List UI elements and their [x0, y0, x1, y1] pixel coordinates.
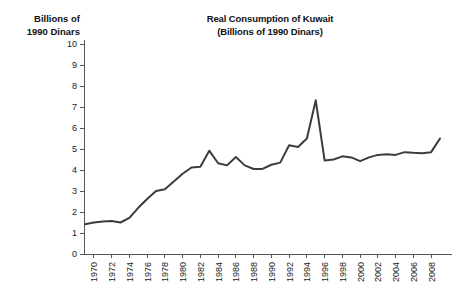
x-tick-label: 1988: [249, 262, 259, 282]
x-tick-label: 1998: [338, 262, 348, 282]
y-tick-label: 1: [72, 228, 77, 238]
y-tick-label: 9: [72, 60, 77, 70]
x-tick-label: 2002: [373, 262, 383, 282]
x-tick-label: 1974: [125, 262, 135, 282]
x-tick-label: 1994: [302, 262, 312, 282]
y-tick-label: 0: [72, 249, 77, 259]
plot-area: 012345678910 197019721974197619781980198…: [0, 0, 466, 293]
y-axis-ticks: 012345678910: [67, 39, 84, 259]
x-tick-label: 1992: [285, 262, 295, 282]
x-tick-label: 1980: [178, 262, 188, 282]
y-tick-label: 2: [72, 207, 77, 217]
x-tick-label: 1970: [89, 262, 99, 282]
x-tick-label: 1972: [107, 262, 117, 282]
x-axis-ticks: 1970197219741976197819801982198419861988…: [89, 254, 436, 282]
x-tick-label: 2006: [409, 262, 419, 282]
y-tick-label: 7: [72, 102, 77, 112]
x-tick-label: 1996: [320, 262, 330, 282]
y-tick-label: 6: [72, 123, 77, 133]
y-tick-label: 4: [72, 165, 77, 175]
y-tick-label: 10: [67, 39, 77, 49]
y-tick-label: 5: [72, 144, 77, 154]
x-tick-label: 1976: [143, 262, 153, 282]
x-tick-label: 2000: [356, 262, 366, 282]
x-tick-label: 2004: [391, 262, 401, 282]
x-tick-label: 1982: [196, 262, 206, 282]
x-tick-label: 2008: [427, 262, 437, 282]
x-tick-label: 1978: [160, 262, 170, 282]
x-tick-label: 1990: [267, 262, 277, 282]
x-tick-label: 1986: [231, 262, 241, 282]
x-tick-label: 1984: [214, 262, 224, 282]
data-series-line: [85, 100, 440, 224]
y-tick-label: 8: [72, 81, 77, 91]
chart-figure: Billions of 1990 Dinars Real Consumption…: [0, 0, 466, 293]
y-tick-label: 3: [72, 186, 77, 196]
